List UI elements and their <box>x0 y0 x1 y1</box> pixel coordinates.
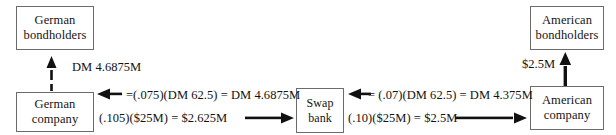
node-swap-bank-line1: Swap <box>306 96 333 110</box>
node-american-bondholders: American bondholders <box>530 6 604 50</box>
arrow-german-to-bank-icon <box>245 112 294 123</box>
arrow-german-to-bondholders-icon <box>47 56 57 91</box>
arrow-american-to-bondholders-icon <box>560 52 572 86</box>
node-german-bondholders: German bondholders <box>16 6 94 50</box>
flow-label-bank-to-german: =(.075)(DM 62.5) = DM 4.6875M <box>126 88 300 103</box>
node-american-bondholders-line2: bondholders <box>536 28 599 43</box>
node-american-company-line2: company <box>544 108 591 123</box>
node-german-bondholders-line2: bondholders <box>24 28 87 43</box>
flow-label-american-to-bank: (.10)($25M) = $2.5M <box>348 111 457 126</box>
node-german-bondholders-line1: German <box>35 13 76 28</box>
node-american-company-line1: American <box>542 93 592 108</box>
node-swap-bank: Swap bank <box>296 88 344 133</box>
flow-label-bank-to-american: = (.07)(DM 62.5) = DM 4.375M <box>368 88 533 103</box>
arrow-american-to-bank-icon <box>455 112 527 123</box>
node-german-company: German company <box>16 92 94 132</box>
flow-label-american-to-bondholders: $2.5M <box>522 57 555 72</box>
currency-swap-diagram: German bondholders German company Swap b… <box>0 0 616 135</box>
arrow-bank-to-german-icon <box>97 88 122 99</box>
node-american-company: American company <box>530 86 604 130</box>
node-american-bondholders-line1: American <box>542 13 592 28</box>
flow-label-german-to-bank: (.105)($25M) = $2.625M <box>99 111 227 126</box>
node-swap-bank-line2: bank <box>308 111 332 125</box>
node-german-company-line2: company <box>32 112 79 127</box>
flow-label-german-to-bondholders: DM 4.6875M <box>72 60 141 75</box>
node-german-company-line1: German <box>35 97 76 112</box>
